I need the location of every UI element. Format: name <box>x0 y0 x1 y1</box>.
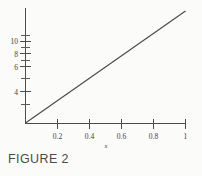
figure-page: 10 8 6 4 0.2 0.4 0.6 0.8 1 x FIGURE 2 <box>0 0 202 176</box>
figure-caption: FIGURE 2 <box>8 152 69 166</box>
chart-figure: 10 8 6 4 0.2 0.4 0.6 0.8 1 x <box>0 0 202 150</box>
x-tick-label-0.6: 0.6 <box>117 132 127 141</box>
y-tick-label-6: 6 <box>14 63 18 72</box>
x-tick-label-0.4: 0.4 <box>85 132 95 141</box>
y-tick-label-10: 10 <box>10 37 18 46</box>
y-tick-label-8: 8 <box>14 50 18 59</box>
x-tick-label-0.2: 0.2 <box>53 132 63 141</box>
line-chart: 10 8 6 4 0.2 0.4 0.6 0.8 1 x <box>0 0 202 150</box>
data-series-line <box>26 11 186 123</box>
x-axis-title: x <box>104 142 108 149</box>
x-tick-label-1: 1 <box>184 132 188 141</box>
x-tick-label-0.8: 0.8 <box>149 132 159 141</box>
y-tick-label-4: 4 <box>14 88 18 97</box>
